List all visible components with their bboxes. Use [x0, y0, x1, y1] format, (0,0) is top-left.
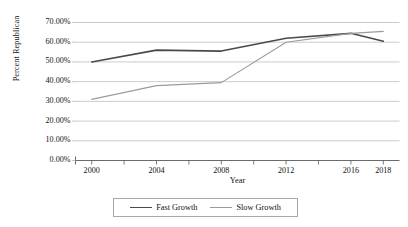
y-axis-tick-label: 0.00%	[23, 155, 71, 164]
legend-line-swatch-fast-growth	[130, 207, 152, 208]
x-axis-tick-label: 2000	[72, 166, 112, 175]
legend-item-slow-growth: Slow Growth	[210, 203, 280, 212]
legend-label-slow-growth: Slow Growth	[236, 203, 280, 212]
line-chart: Percent Republican Year 0.00%10.00%20.00…	[0, 0, 408, 227]
y-axis-tick-label: 60.00%	[23, 37, 71, 46]
series-line-fast-growth	[92, 33, 384, 62]
y-axis-tick-label: 20.00%	[23, 116, 71, 125]
y-axis-tick-label: 30.00%	[23, 96, 71, 105]
x-axis-title: Year	[75, 176, 400, 185]
y-axis-tick-label: 10.00%	[23, 135, 71, 144]
legend-item-fast-growth: Fast Growth	[130, 203, 197, 212]
legend-line-swatch-slow-growth	[210, 207, 232, 208]
y-axis-title: Percent Republican	[12, 0, 21, 109]
x-axis-tick-label: 2012	[266, 166, 306, 175]
y-axis-tick-label: 50.00%	[23, 56, 71, 65]
plot-area	[0, 0, 408, 227]
series-line-slow-growth	[92, 31, 384, 99]
legend-label-fast-growth: Fast Growth	[156, 203, 197, 212]
chart-legend: Fast Growth Slow Growth	[113, 198, 298, 217]
y-axis-tick-label: 40.00%	[23, 76, 71, 85]
x-axis-tick-label: 2008	[201, 166, 241, 175]
x-axis-tick-label: 2018	[363, 166, 403, 175]
y-axis-tick-label: 70.00%	[23, 17, 71, 26]
x-axis-tick-label: 2004	[137, 166, 177, 175]
